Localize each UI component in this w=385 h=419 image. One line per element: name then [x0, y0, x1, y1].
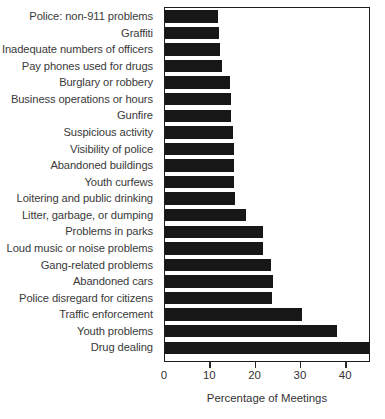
bar: [165, 93, 231, 105]
x-axis: 010203040: [164, 362, 374, 392]
bar-row: [165, 157, 369, 174]
bar-row: [165, 240, 369, 257]
bar-row: [165, 141, 369, 158]
category-label: Police: non-911 problems: [29, 8, 153, 25]
category-label: Loud music or noise problems: [7, 240, 153, 257]
bar: [165, 76, 230, 88]
bar-row: [165, 25, 369, 42]
bar: [165, 308, 302, 320]
bar: [165, 275, 273, 287]
bar-row: [165, 91, 369, 108]
bar-row: [165, 290, 369, 307]
bar-row: [165, 273, 369, 290]
bar: [165, 43, 220, 55]
bar: [165, 242, 263, 254]
x-tick-label: 40: [339, 369, 352, 381]
bar: [165, 126, 233, 138]
category-label: Burglary or robbery: [59, 74, 153, 91]
x-tick-mark: [345, 362, 346, 368]
bar: [165, 342, 369, 354]
x-tick-mark: [300, 362, 301, 368]
category-label: Abandoned buildings: [50, 157, 153, 174]
category-label: Problems in parks: [65, 223, 153, 240]
x-tick-label: 0: [161, 369, 167, 381]
bar: [165, 325, 337, 337]
bar-row: [165, 257, 369, 274]
category-label: Drug dealing: [91, 339, 153, 356]
category-label: Inadequate numbers of officers: [2, 41, 153, 58]
category-label: Gang-related problems: [41, 257, 153, 274]
category-label: Police disregard for citizens: [19, 290, 153, 307]
category-label: Youth problems: [77, 323, 153, 340]
bar: [165, 110, 231, 122]
bars-layer: [165, 8, 369, 356]
x-tick-mark: [209, 362, 210, 368]
category-label: Abandoned cars: [73, 273, 153, 290]
x-tick-label: 20: [248, 369, 261, 381]
category-label-column: Police: non-911 problemsGraffitiInadequa…: [0, 8, 158, 356]
bar-row: [165, 74, 369, 91]
category-label: Visibility of police: [70, 141, 153, 158]
bar: [165, 60, 222, 72]
bar-row: [165, 306, 369, 323]
bar-row: [165, 323, 369, 340]
bar: [165, 27, 219, 39]
bar-chart: Police: non-911 problemsGraffitiInadequa…: [0, 0, 385, 419]
bar: [165, 209, 246, 221]
bar-row: [165, 174, 369, 191]
category-label: Gunfire: [117, 107, 153, 124]
bar-row: [165, 223, 369, 240]
category-label: Youth curfews: [84, 174, 153, 191]
bar: [165, 143, 234, 155]
bar-row: [165, 207, 369, 224]
bar-row: [165, 58, 369, 75]
bar: [165, 176, 234, 188]
category-label: Business operations or hours: [11, 91, 153, 108]
bar: [165, 159, 234, 171]
bar-row: [165, 339, 369, 356]
category-label: Suspicious activity: [63, 124, 153, 141]
bar-row: [165, 8, 369, 25]
category-label: Traffic enforcement: [59, 306, 153, 323]
x-tick-label: 10: [203, 369, 216, 381]
x-tick-label: 30: [294, 369, 307, 381]
bar: [165, 10, 218, 22]
x-axis-title: Percentage of Meetings: [164, 392, 370, 404]
x-tick-mark: [255, 362, 256, 368]
bar: [165, 226, 263, 238]
bar: [165, 292, 272, 304]
bar-row: [165, 124, 369, 141]
bar-row: [165, 190, 369, 207]
bar-row: [165, 107, 369, 124]
bar: [165, 259, 271, 271]
category-label: Loitering and public drinking: [17, 190, 153, 207]
bar: [165, 192, 235, 204]
category-label: Graffiti: [121, 25, 153, 42]
category-label: Pay phones used for drugs: [22, 58, 153, 75]
category-label: Litter, garbage, or dumping: [22, 207, 153, 224]
bar-row: [165, 41, 369, 58]
